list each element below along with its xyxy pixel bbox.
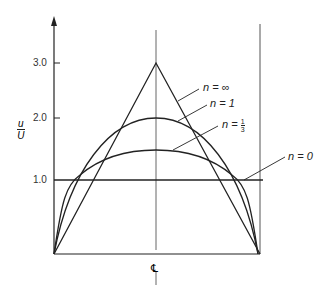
label-n-one: n = 1 bbox=[210, 97, 235, 109]
y-tick-3: 3.0 bbox=[33, 57, 47, 68]
label-n-zero: n = 0 bbox=[288, 150, 313, 162]
y-axis-label: u U bbox=[17, 118, 25, 141]
label-n-infinity: n = ∞ bbox=[203, 81, 230, 93]
y-tick-1: 1.0 bbox=[33, 174, 47, 185]
centerline-symbol: ℄ bbox=[151, 262, 158, 275]
y-tick-2: 2.0 bbox=[33, 112, 47, 123]
y-axis-arrow-icon bbox=[51, 16, 57, 26]
velocity-profile-diagram bbox=[0, 0, 331, 301]
label-n-one-third: n = 13 bbox=[222, 118, 245, 133]
